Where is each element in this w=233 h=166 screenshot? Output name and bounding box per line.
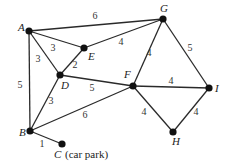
- car-park-label: (car park): [65, 148, 108, 161]
- edge-weight-label: 4: [142, 106, 147, 117]
- edge-weight-label: 5: [188, 42, 193, 53]
- node-label-c: C: [54, 148, 62, 160]
- edge-b-c: [30, 131, 62, 144]
- node-e: [80, 44, 87, 51]
- edge-weight-label: 2: [73, 59, 78, 70]
- edge-weight-label: 4: [169, 75, 174, 86]
- edge-a-d: [29, 31, 60, 75]
- node-label-i: I: [214, 82, 220, 94]
- edge-weight-label: 3: [51, 42, 56, 53]
- edge-weight-label: 4: [119, 36, 124, 47]
- edge-weight-label: 6: [93, 10, 98, 21]
- edge-d-f: [60, 75, 133, 86]
- node-d: [56, 71, 63, 78]
- node-i: [205, 84, 212, 91]
- edge-f-h: [133, 86, 173, 132]
- weighted-graph-diagram: 633542534546441 AGEDFIHBC (car park): [0, 0, 233, 166]
- node-f: [129, 82, 136, 89]
- node-c: [58, 140, 65, 147]
- edge-a-b: [29, 31, 30, 131]
- edge-weight-label: 5: [90, 82, 95, 93]
- edge-f-i: [133, 86, 209, 88]
- node-label-b: B: [19, 126, 26, 138]
- edge-d-b: [30, 75, 60, 131]
- node-labels-layer: AGEDFIHBC: [17, 2, 220, 160]
- edge-weight-label: 5: [18, 79, 23, 90]
- edge-a-e: [29, 31, 84, 48]
- node-g: [159, 15, 166, 22]
- node-label-e: E: [87, 50, 95, 62]
- edge-f-b: [30, 86, 133, 131]
- edge-weight-label: 6: [83, 109, 88, 120]
- node-label-d: D: [60, 79, 69, 91]
- edge-e-g: [84, 19, 163, 48]
- node-b: [26, 127, 33, 134]
- node-label-a: A: [17, 21, 25, 33]
- edge-weight-label: 3: [49, 95, 54, 106]
- edge-weight-label: 1: [40, 138, 45, 149]
- edge-weight-label: 3: [36, 53, 41, 64]
- edge-i-h: [173, 88, 209, 132]
- node-label-f: F: [123, 68, 131, 80]
- edge-weight-label: 4: [194, 106, 199, 117]
- node-label-g: G: [160, 2, 168, 14]
- node-label-h: H: [171, 135, 181, 147]
- node-a: [25, 27, 32, 34]
- edge-weight-label: 4: [147, 47, 152, 58]
